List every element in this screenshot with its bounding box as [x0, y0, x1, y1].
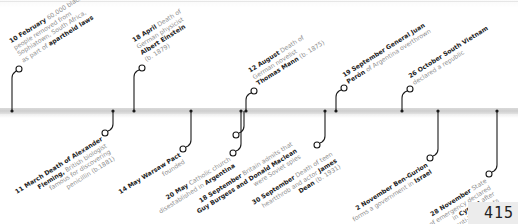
connector-14-may: [186, 111, 191, 147]
connector-28-november: [492, 111, 497, 172]
connector-26-october: [402, 91, 407, 111]
connector-18-april: [134, 70, 139, 111]
marker-18-april-icon: [139, 65, 145, 71]
connector-20-may: [236, 111, 241, 151]
marker-18-september-icon: [233, 132, 239, 138]
connector-19-september: [336, 90, 341, 111]
page-number: 415: [468, 202, 518, 224]
marker-11-march-icon: [102, 130, 108, 136]
connector-30-september: [320, 111, 325, 143]
connector-2-november: [433, 111, 438, 156]
marker-19-september-icon: [341, 85, 347, 91]
connector-10-february: [12, 71, 16, 111]
timeline-connectors: [0, 0, 518, 224]
connector-11-march: [108, 111, 113, 131]
marker-26-october-icon: [407, 86, 413, 92]
marker-28-november-icon: [486, 171, 492, 177]
marker-14-may-icon: [180, 146, 186, 152]
marker-2-november-icon: [427, 155, 433, 161]
marker-20-may-icon: [230, 150, 236, 156]
timeline-page: 10 February 60,000 blackpeople removed f…: [0, 0, 518, 224]
marker-12-august-icon: [251, 88, 257, 94]
marker-30-september-icon: [314, 142, 320, 148]
marker-10-february-icon: [16, 66, 22, 72]
connector-12-august: [246, 93, 251, 111]
